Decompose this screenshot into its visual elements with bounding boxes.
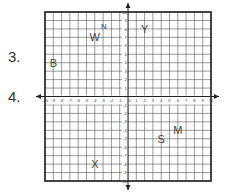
x-tick-label: -7 [68, 98, 72, 103]
y-tick-label: -3 [123, 119, 127, 124]
x-tick-label: -4 [93, 98, 97, 103]
y-tick-label: -8 [123, 162, 127, 167]
y-tick-label: -9 [123, 170, 127, 175]
y-tick-label: -2 [123, 111, 127, 116]
coordinate-plane: -10-9-8-7-6-5-4-3-2-10123456789101098765… [0, 0, 227, 193]
point-label-m: M [173, 125, 182, 136]
y-axis-up-arrow-icon [126, 3, 131, 8]
y-tick-label: -10 [121, 179, 128, 184]
x-tick-label: 10 [209, 98, 214, 103]
x-axis-left-arrow-icon [36, 94, 41, 99]
point-label-x: X [91, 159, 98, 170]
x-tick-label: -1 [118, 98, 122, 103]
x-tick-label: -5 [85, 98, 89, 103]
y-tick-label: -6 [123, 145, 127, 150]
x-tick-label: -9 [51, 98, 55, 103]
point-label-y: Y [141, 23, 148, 34]
point-label-s: S [158, 133, 165, 144]
point-label-n: N [101, 23, 107, 31]
x-tick-label: -6 [76, 98, 80, 103]
y-axis-down-arrow-icon [126, 185, 131, 190]
x-tick-label: -8 [60, 98, 64, 103]
y-tick-label: -7 [123, 153, 127, 158]
x-tick-label: -3 [101, 98, 105, 103]
y-tick-label: -5 [123, 136, 127, 141]
point-label-b: B [50, 57, 57, 68]
y-tick-label: 10 [122, 10, 127, 15]
point-label-w: W [90, 32, 100, 43]
y-tick-label: -1 [123, 103, 127, 108]
x-tick-label: -10 [42, 98, 49, 103]
x-tick-label: -2 [110, 98, 114, 103]
y-tick-label: -4 [123, 128, 127, 133]
x-axis-right-arrow-icon [214, 94, 219, 99]
